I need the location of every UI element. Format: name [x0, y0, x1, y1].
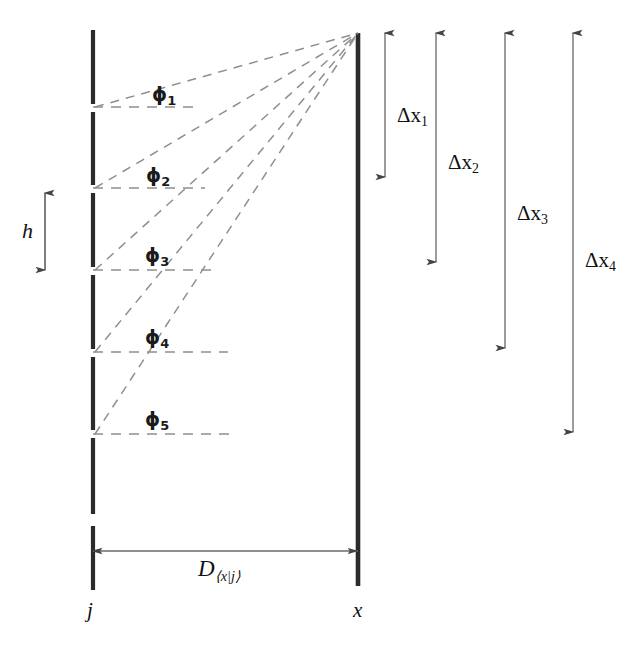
delta-x-label-1: Δx1 — [397, 105, 428, 129]
angle-baselines-group — [93, 107, 237, 434]
ray-lines-group — [95, 33, 358, 434]
ray-geometry-figure: ϕ1 ϕ2 ϕ3 ϕ4 ϕ5 Δx1 Δx2 Δx3 Δx4 h D⟨x|j⟩ … — [0, 0, 638, 657]
ray-2 — [95, 33, 358, 188]
axis-label-j: j — [87, 600, 93, 621]
angle-label-phi-2: ϕ2 — [146, 166, 170, 189]
ray-1 — [95, 33, 358, 107]
angle-label-phi-3: ϕ3 — [145, 246, 169, 269]
delta-x-arrows-group — [385, 33, 573, 432]
delta-x-label-4: Δx4 — [585, 250, 616, 274]
delta-x-label-3: Δx3 — [517, 203, 548, 227]
angle-label-phi-4: ϕ4 — [145, 328, 169, 351]
figure-canvas — [0, 0, 638, 657]
ray-4 — [95, 33, 358, 352]
distance-label-D: D⟨x|j⟩ — [198, 557, 241, 583]
ray-3 — [95, 33, 358, 270]
angle-label-phi-1: ϕ1 — [152, 85, 176, 108]
delta-x-label-2: Δx2 — [448, 152, 479, 176]
segment-height-label-h: h — [22, 220, 33, 242]
axis-label-x: x — [353, 600, 362, 621]
angle-label-phi-5: ϕ5 — [145, 410, 169, 433]
